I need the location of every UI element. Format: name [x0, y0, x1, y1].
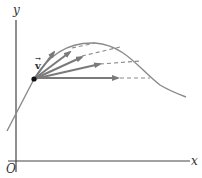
trajectory-curve	[7, 43, 186, 131]
origin-label: O	[6, 162, 16, 176]
y-axis-label: y	[12, 3, 20, 17]
point-dot	[31, 76, 36, 81]
x-axis-label: x	[191, 154, 198, 168]
vector-accent: →	[35, 54, 41, 63]
velocity-diagram: y x O v →	[0, 0, 202, 178]
